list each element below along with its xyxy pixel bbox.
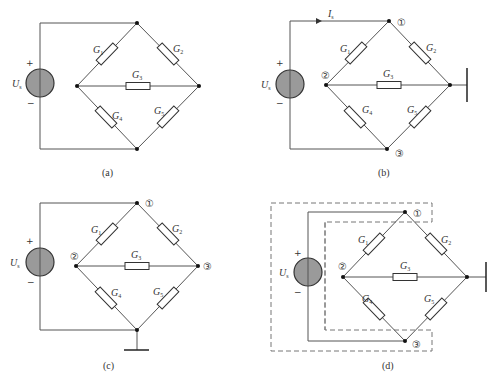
resistor-g5 <box>157 287 179 309</box>
node-2-label: ② <box>338 261 347 272</box>
label-g2: G2 <box>426 42 436 54</box>
plus-sign: + <box>26 236 34 246</box>
minus-sign: − <box>276 98 284 108</box>
plus-sign: + <box>276 58 284 68</box>
label-g2: G2 <box>172 223 182 235</box>
node-3-label: ③ <box>203 261 212 272</box>
label-g4: G4 <box>362 104 372 116</box>
source-label: Us <box>12 78 22 90</box>
current-label: Is <box>327 8 334 20</box>
resistor-g3 <box>125 263 149 270</box>
resistor-g3 <box>393 274 417 281</box>
panel-d: + − Us ① ② ③ G1 G2 G3 G4 G5 (d) <box>271 203 486 372</box>
node-1-label: ① <box>397 17 406 28</box>
label-g3: G3 <box>132 69 142 81</box>
label-g2: G2 <box>173 43 183 55</box>
source-label: Us <box>10 257 20 269</box>
label-g4: G4 <box>112 110 122 122</box>
source-label: Us <box>261 79 271 91</box>
node-2-label: ② <box>321 70 330 81</box>
plus-sign: + <box>26 58 34 68</box>
label-g3: G3 <box>400 260 410 272</box>
caption-c: (c) <box>103 360 114 372</box>
label-g4: G4 <box>111 287 121 299</box>
panel-b: + − Us Is ① ② ③ G1 G2 G3 G4 G5 (b) <box>261 8 467 179</box>
label-g3: G3 <box>131 249 141 261</box>
label-g1: G1 <box>91 224 101 236</box>
node-3-label: ③ <box>395 148 404 159</box>
node-1-label: ① <box>145 198 154 209</box>
label-g4: G4 <box>362 293 372 305</box>
label-g1: G1 <box>358 234 368 246</box>
caption-d: (d) <box>382 360 394 372</box>
bridge-circuit-figure: + − Us G1 G2 G3 G4 G5 (a) + − Us Is <box>0 0 496 376</box>
panel-c: + − Us ① ② ③ G1 G2 G3 G4 G5 (c) <box>10 198 212 372</box>
label-g1: G1 <box>93 44 103 56</box>
node-3-label: ③ <box>412 339 421 350</box>
minus-sign: − <box>27 277 35 287</box>
resistor-g3 <box>126 83 150 90</box>
panel-a: + − Us G1 G2 G3 G4 G5 (a) <box>12 21 201 179</box>
minus-sign: − <box>294 287 302 297</box>
resistor-g3 <box>377 82 401 89</box>
label-g5: G5 <box>154 105 164 117</box>
label-g2: G2 <box>441 234 451 246</box>
minus-sign: − <box>27 98 35 108</box>
source-label: Us <box>279 267 289 279</box>
caption-a: (a) <box>102 167 113 179</box>
node-1-label: ① <box>413 208 422 219</box>
label-g5: G5 <box>407 104 417 116</box>
current-arrow-icon <box>316 18 322 24</box>
label-g5: G5 <box>153 286 163 298</box>
label-g1: G1 <box>340 43 350 55</box>
label-g5: G5 <box>424 293 434 305</box>
caption-b: (b) <box>378 167 390 179</box>
label-g3: G3 <box>383 68 393 80</box>
node-2-label: ② <box>70 251 79 262</box>
plus-sign: + <box>294 248 302 258</box>
